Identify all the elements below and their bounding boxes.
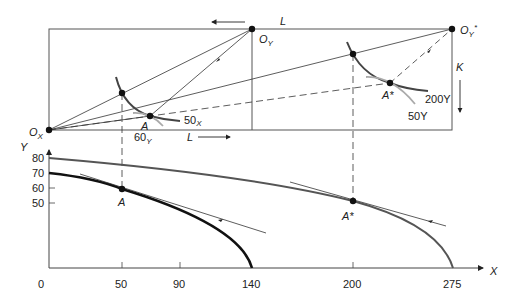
x-tick-label-140: 140 — [242, 278, 260, 290]
labor-label-top: L — [280, 15, 286, 27]
isoquant-200y-label: 200Y — [425, 93, 451, 105]
point-a-ppf — [119, 186, 125, 192]
point-a-box — [147, 113, 153, 119]
isoquant-50x-label: 50X — [184, 114, 202, 128]
x-tick-label-50: 50 — [115, 278, 127, 290]
x-tick-label-275: 275 — [443, 278, 461, 290]
y-tick-label-60: 60 — [32, 182, 44, 194]
point-efficient-large — [350, 51, 356, 57]
origin-y-star-label: OY* — [460, 23, 478, 39]
ppf-large — [49, 158, 453, 268]
isoquant-60y-label: 60Y — [134, 131, 152, 146]
origin-y-point — [249, 26, 255, 32]
point-a-star-ppf — [350, 198, 356, 204]
y-axis-label: Y — [20, 141, 28, 153]
point-a-star-box — [387, 80, 393, 86]
labor-label-bottom: L — [187, 131, 193, 143]
origin-y-star-point — [449, 26, 455, 32]
point-efficient-small — [119, 90, 125, 96]
point-a-star-label-box: A* — [381, 89, 394, 101]
x-tick-label-90: 90 — [173, 278, 185, 290]
tangent-a-arrow — [218, 219, 223, 222]
origin-label: 0 — [38, 278, 44, 290]
tangent-a-star-arrow — [428, 220, 433, 223]
edgeworth-box-ppf-diagram: OX OY OY* L L K A A* 50X 60Y 200Y 50Y — [0, 0, 514, 302]
point-a-star-label-ppf: A* — [341, 210, 354, 222]
y-tick-label-80: 80 — [32, 152, 44, 164]
x-tick-label-200: 200 — [343, 278, 361, 290]
x-axis-label: X — [489, 265, 498, 277]
edgeworth-box: OX OY OY* L L K A A* 50X 60Y 200Y 50Y — [29, 15, 478, 202]
capital-label: K — [456, 61, 464, 73]
tangent-a-star — [290, 182, 446, 226]
isoquant-50y-label: 50Y — [408, 110, 428, 122]
arrow-head-a-oy — [216, 58, 220, 62]
point-a-label-ppf: A — [117, 196, 125, 208]
origin-x-point — [46, 127, 52, 133]
diagonal-large-box — [49, 29, 452, 130]
tangent-a — [80, 174, 266, 233]
ppf-chart: Y X 0 80 70 60 50 50 90 140 200 275 A A* — [20, 141, 498, 290]
arrow-head-astar-oystar — [427, 49, 431, 53]
origin-x-label: OX — [29, 126, 44, 141]
origin-y-label: OY — [259, 33, 274, 48]
y-tick-label-70: 70 — [32, 167, 44, 179]
y-tick-label-50: 50 — [32, 197, 44, 209]
